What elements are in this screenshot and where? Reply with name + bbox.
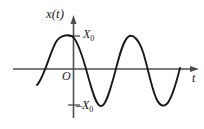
negative-amplitude-label: –X0 (76, 99, 93, 114)
positive-amplitude-label: X0 (83, 28, 94, 43)
plot-canvas (0, 0, 204, 129)
x-axis-label: t (192, 72, 195, 84)
oscillation-graph-figure: x(t) t O X0 –X0 (0, 0, 204, 129)
x-axis-group (13, 66, 199, 72)
sinusoid-curve-group (37, 35, 180, 106)
origin-label: O (62, 70, 71, 82)
sinusoid-curve (37, 35, 180, 106)
y-axis-label: x(t) (46, 7, 64, 20)
positive-amplitude-subscript: 0 (90, 34, 94, 43)
y-axis-arrowhead (71, 15, 77, 24)
negative-amplitude-symbol: –X (76, 98, 89, 112)
negative-amplitude-subscript: 0 (89, 105, 93, 114)
